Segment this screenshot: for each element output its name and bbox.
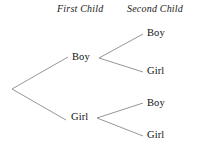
tree-branch-lines <box>0 0 202 153</box>
node-first-child-girl: Girl <box>71 111 88 122</box>
branch-root-to-boy <box>12 57 68 89</box>
branch-boy-to-boy <box>99 34 143 58</box>
tree-diagram-canvas: First Child Second Child Boy Girl Boy Gi… <box>0 0 202 153</box>
column-header-second-child: Second Child <box>127 3 183 14</box>
node-first-child-boy: Boy <box>72 51 90 62</box>
node-second-child-boy-boy: Boy <box>147 27 165 38</box>
column-header-first-child: First Child <box>57 3 103 14</box>
node-second-child-girl-girl: Girl <box>147 129 164 140</box>
node-second-child-boy-girl: Girl <box>147 65 164 76</box>
branch-girl-to-girl <box>97 118 143 136</box>
branch-girl-to-boy <box>97 103 143 118</box>
branch-boy-to-girl <box>99 58 143 72</box>
node-second-child-girl-boy: Boy <box>147 97 165 108</box>
branch-root-to-girl <box>12 89 66 120</box>
